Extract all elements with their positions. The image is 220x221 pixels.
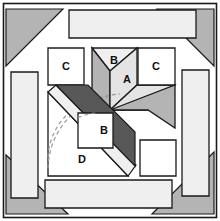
quilt-block-canvas: C C B A B D [0,0,220,221]
patch-unlabeled-square [140,140,176,176]
patch-c-left [48,48,84,85]
border-strip-bottom [45,180,172,208]
border-strip-right [182,70,209,196]
border-strip-left [11,72,38,198]
patch-c-right [138,48,175,85]
border-strip-top [69,10,196,38]
patch-b-small [78,113,113,148]
quilt-block-figure: C C B A B D [0,0,220,221]
